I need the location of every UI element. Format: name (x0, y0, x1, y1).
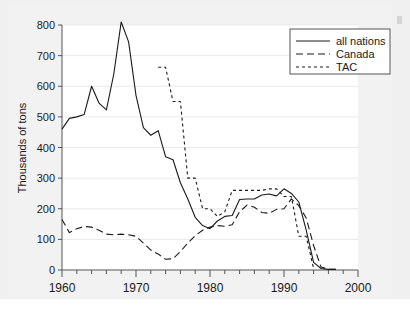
legend-label-canada: Canada (336, 48, 375, 60)
y-tick-label: 100 (37, 233, 55, 245)
figure-bottom-margin (0, 299, 410, 319)
legend-label-tac: TAC (336, 61, 357, 73)
x-tick-label: 1970 (123, 281, 150, 295)
x-tick-label: 1990 (271, 281, 298, 295)
y-tick-label: 0 (49, 264, 55, 276)
y-tick-label: 300 (37, 172, 55, 184)
y-tick-label: 500 (37, 111, 55, 123)
y-tick-label: 400 (37, 142, 55, 154)
y-tick-label: 800 (37, 19, 55, 31)
line-chart: 0100200300400500600700800 19601970198019… (0, 0, 410, 319)
y-axis-tick-labels: 0100200300400500600700800 (37, 19, 55, 276)
chart-legend: all nationsCanadaTAC (290, 29, 390, 74)
legend-label-all-nations: all nations (336, 35, 386, 47)
x-axis-tick-labels: 19601970198019902000 (49, 281, 372, 295)
x-tick-label: 1960 (49, 281, 76, 295)
y-axis-ticks (58, 25, 62, 270)
x-tick-label: 1980 (197, 281, 224, 295)
y-axis-label: Thousands of tons (16, 102, 28, 193)
y-tick-label: 600 (37, 80, 55, 92)
figure-container: 0100200300400500600700800 19601970198019… (0, 0, 410, 319)
x-tick-label: 2000 (345, 281, 372, 295)
y-tick-label: 700 (37, 50, 55, 62)
y-tick-label: 200 (37, 203, 55, 215)
